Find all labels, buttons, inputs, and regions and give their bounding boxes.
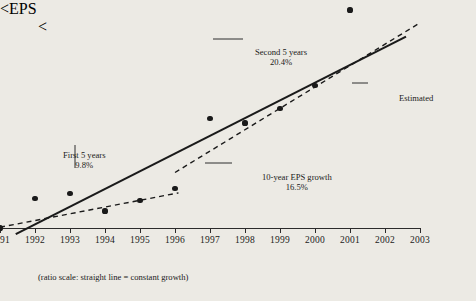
x-tick-mark: [315, 228, 316, 233]
x-tick-label: 1996: [165, 235, 185, 245]
data-point: [102, 208, 107, 213]
x-tick-mark: [280, 228, 281, 233]
x-tick-mark: [105, 228, 106, 233]
annotation-ten-year-growth: 10-year EPS growth 16.5%: [262, 172, 332, 193]
x-tick-label: 2002: [375, 235, 395, 245]
x-tick-mark: [140, 228, 141, 233]
x-tick-mark: [210, 228, 211, 233]
annotation-first-line1: First 5 years: [63, 150, 106, 160]
series-line: [16, 37, 406, 234]
data-point: [207, 116, 212, 121]
annotation-second-five-years: Second 5 years 20.4%: [255, 47, 307, 68]
x-tick-mark: [35, 228, 36, 233]
data-point: [0, 225, 3, 230]
data-point: [137, 198, 142, 203]
x-tick-label: 1994: [95, 235, 115, 245]
chart-footnote: (ratio scale: straight line = constant g…: [38, 272, 188, 282]
annotation-second-line1: Second 5 years: [255, 47, 307, 57]
x-tick-mark: [385, 228, 386, 233]
x-tick-mark: [350, 228, 351, 233]
annotation-second-line2: 20.4%: [255, 57, 307, 67]
data-point: [32, 196, 37, 201]
x-tick-label: 2003: [410, 235, 430, 245]
data-point: [242, 120, 247, 125]
x-tick-label: 1991: [0, 235, 10, 245]
annotation-tenyear-line2: 16.5%: [262, 182, 332, 192]
annotation-tenyear-line1: 10-year EPS growth: [262, 172, 332, 182]
x-tick-mark: [70, 228, 71, 233]
x-tick-label: 2001: [340, 235, 360, 245]
x-tick-label: 1992: [25, 235, 45, 245]
x-tick-label: 1997: [200, 235, 220, 245]
x-tick-mark: [245, 228, 246, 233]
x-tick-label: 1999: [270, 235, 290, 245]
x-tick-mark: [420, 228, 421, 233]
data-point: [172, 186, 177, 191]
annotation-first-line2: 9.8%: [63, 160, 106, 170]
x-tick-label: 2000: [305, 235, 325, 245]
annotation-first-five-years: First 5 years 9.8%: [63, 150, 106, 171]
series-layer: [0, 0, 420, 228]
data-point: [347, 7, 352, 12]
data-point: [312, 83, 317, 88]
x-tick-mark: [175, 228, 176, 233]
data-point: [67, 191, 72, 196]
annotation-estimated: Estimated: [399, 93, 433, 103]
x-tick-label: 1995: [130, 235, 150, 245]
x-tick-label: 1998: [235, 235, 255, 245]
x-tick-label: 1993: [60, 235, 80, 245]
